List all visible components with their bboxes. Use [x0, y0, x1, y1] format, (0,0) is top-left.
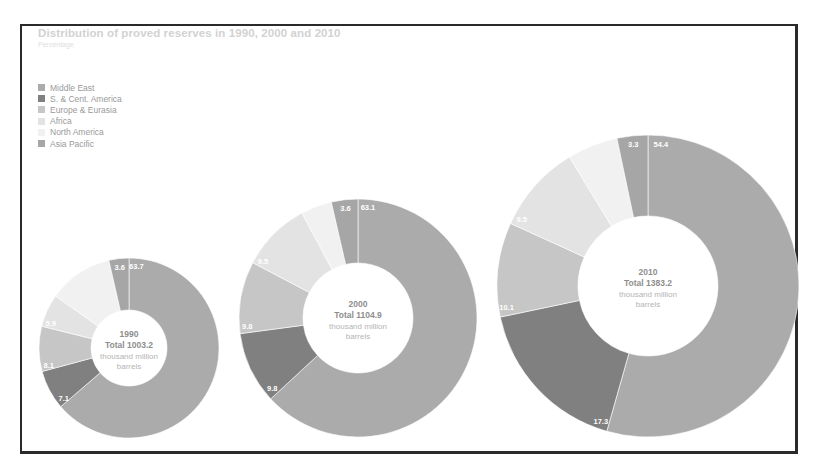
center-unit: barrels — [117, 362, 141, 371]
slice-value-label: 63.1 — [361, 203, 376, 212]
slice-value-label: 9.8 — [242, 322, 252, 331]
slice-value-label: 63.7 — [129, 262, 144, 271]
center-year: 2000 — [349, 299, 368, 309]
center-total: Total 1104.9 — [334, 310, 382, 320]
center-year: 1990 — [120, 329, 139, 339]
slice-value-label: 5.9 — [46, 319, 56, 328]
center-unit: thousand million — [619, 290, 677, 299]
slice-value-label: 10.1 — [499, 303, 514, 312]
slice-s-cent-america — [500, 300, 629, 431]
donut-charts: 63.77.18.15.93.61990Total 1003.2thousand… — [0, 0, 817, 468]
slice-value-label: 7.1 — [59, 394, 69, 403]
slice-value-label: 9.5 — [516, 215, 526, 224]
center-unit: barrels — [346, 332, 370, 341]
center-unit: thousand million — [100, 352, 158, 361]
slice-value-label: 54.4 — [654, 140, 669, 149]
slice-value-label: 9.5 — [258, 257, 268, 266]
donut-1990: 63.77.18.15.93.61990Total 1003.2thousand… — [39, 258, 219, 438]
slice-value-label: 3.3 — [628, 140, 638, 149]
center-unit: thousand million — [329, 322, 387, 331]
donut-2010: 54.417.310.19.53.32010Total 1383.2thousa… — [497, 135, 799, 437]
slice-value-label: 9.8 — [267, 384, 277, 393]
slice-value-label: 3.6 — [340, 204, 350, 213]
slice-value-label: 8.1 — [43, 361, 53, 370]
donut-2000: 63.19.89.89.53.62000Total 1104.9thousand… — [239, 199, 477, 437]
center-year: 2010 — [639, 267, 658, 277]
center-total: Total 1383.2 — [624, 278, 672, 288]
slice-value-label: 17.3 — [593, 417, 608, 426]
center-unit: barrels — [636, 300, 660, 309]
center-total: Total 1003.2 — [105, 340, 153, 350]
slice-value-label: 3.6 — [115, 263, 125, 272]
